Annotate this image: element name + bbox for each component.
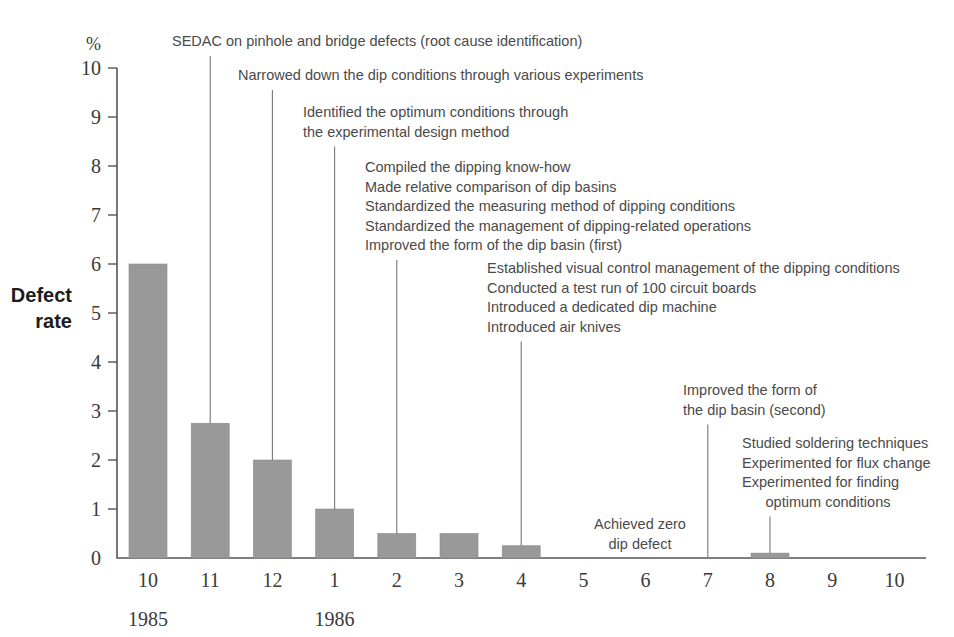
x-tick-label: 8 [765, 569, 775, 591]
y-tick-label: 6 [91, 253, 101, 275]
annotation-line: Conducted a test run of 100 circuit boar… [487, 280, 756, 296]
annotation-line: Established visual control management of… [487, 260, 900, 276]
x-tick-label: 5 [578, 569, 588, 591]
x-tick-label: 7 [703, 569, 713, 591]
bar [502, 546, 540, 558]
y-tick-label: 10 [81, 57, 101, 79]
period-label: 1985 [128, 608, 168, 630]
bar [191, 423, 229, 558]
annotation-line: Compiled the dipping know-how [365, 159, 571, 175]
annotation-line: Experimented for finding [742, 474, 899, 490]
annotation-line: Standardized the measuring method of dip… [365, 198, 735, 214]
x-tick-label: 12 [262, 569, 282, 591]
y-tick-label: 9 [91, 106, 101, 128]
bar [253, 460, 291, 558]
x-tick-label: 10 [884, 569, 904, 591]
bar [129, 264, 167, 558]
annotation-line: Experimented for flux change [742, 455, 931, 471]
annotation-line: Studied soldering techniques [742, 435, 928, 451]
bar [378, 534, 416, 559]
annotation-soldering-techniques: Studied soldering techniquesExperimented… [742, 435, 931, 553]
y-axis-title-line: rate [35, 310, 72, 332]
y-axis-title-line: Defect [11, 284, 72, 306]
x-tick-label: 11 [201, 569, 220, 591]
annotation-line: Made relative comparison of dip basins [365, 179, 616, 195]
annotation-line: Improved the form of [683, 382, 818, 398]
x-tick-label: 3 [454, 569, 464, 591]
y-tick-label: 7 [91, 204, 101, 226]
y-tick-label: 0 [91, 547, 101, 569]
x-tick-label: 2 [392, 569, 402, 591]
annotation-line: Narrowed down the dip conditions through… [238, 67, 643, 83]
annotation-line: Introduced air knives [487, 319, 621, 335]
annotation-line: the dip basin (second) [683, 402, 826, 418]
y-tick-label: 1 [91, 498, 101, 520]
chart-page: 012345678910%Defectrate10111212345678910… [0, 0, 954, 637]
x-tick-label: 1 [330, 569, 340, 591]
annotation-line: Achieved zero [594, 516, 686, 532]
annotation-dipping-know-how: Compiled the dipping know-howMade relati… [365, 159, 751, 534]
annotation-line: Introduced a dedicated dip machine [487, 299, 717, 315]
annotation-line: Standardized the management of dipping-r… [365, 218, 751, 234]
bar [751, 553, 789, 558]
period-label: 1986 [315, 608, 355, 630]
x-tick-label: 10 [138, 569, 158, 591]
y-tick-label: 8 [91, 155, 101, 177]
annotation-line: optimum conditions [766, 494, 891, 510]
y-tick-label: 2 [91, 449, 101, 471]
annotation-line: dip defect [609, 536, 672, 552]
bar [316, 509, 354, 558]
y-tick-label: 5 [91, 302, 101, 324]
percent-unit-label: % [86, 34, 101, 54]
defect-rate-bar-chart: 012345678910%Defectrate10111212345678910… [0, 0, 954, 637]
annotation-achieved-zero: Achieved zerodip defect [594, 516, 686, 552]
annotation-line: the experimental design method [303, 124, 509, 140]
y-tick-label: 3 [91, 400, 101, 422]
x-tick-label: 4 [516, 569, 526, 591]
annotation-line: Improved the form of the dip basin (firs… [365, 237, 622, 253]
bar [440, 534, 478, 559]
annotation-line: SEDAC on pinhole and bridge defects (roo… [172, 33, 582, 49]
x-tick-label: 9 [827, 569, 837, 591]
x-tick-label: 6 [641, 569, 651, 591]
y-tick-label: 4 [91, 351, 101, 373]
annotation-line: Identified the optimum conditions throug… [303, 104, 568, 120]
